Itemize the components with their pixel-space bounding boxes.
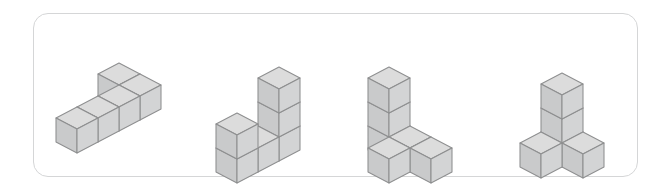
figure-4-t-shape bbox=[517, 70, 607, 181]
figure-2-u-shape bbox=[213, 64, 303, 186]
figure-1-l-shape bbox=[53, 60, 164, 156]
screenshot-root bbox=[0, 0, 671, 191]
figure-3-corner-stack bbox=[365, 64, 455, 186]
figures-layer bbox=[0, 0, 671, 191]
